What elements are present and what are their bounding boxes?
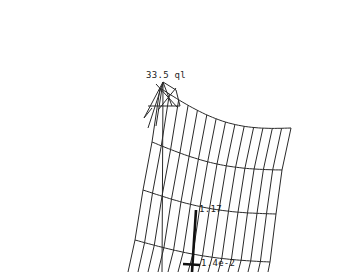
load-label: 33.5 ql [146, 71, 186, 80]
lower-value-label: 1.4e-2 [201, 259, 235, 268]
upper-value-label: 1.17 [199, 205, 222, 214]
response-bar [183, 210, 200, 272]
mesh-column-line [268, 128, 291, 272]
shell-mesh-diagram [0, 0, 364, 272]
